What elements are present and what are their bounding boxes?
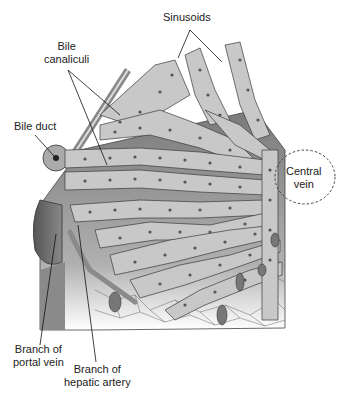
label-portal-vein-line1: Branch of [13,343,64,356]
label-central-vein: Central vein [286,165,321,191]
label-bile-canaliculi-line1: Bile [44,40,89,53]
label-hepatic-artery-line2: hepatic artery [64,376,131,389]
label-sinusoids: Sinusoids [163,11,211,24]
label-bile-canaliculi: Bile canaliculi [44,40,89,66]
label-bile-duct: Bile duct [14,120,56,133]
label-hepatic-artery-line1: Branch of [64,363,131,376]
label-central-vein-line1: Central [286,165,321,178]
label-central-vein-line2: vein [286,178,321,191]
label-portal-vein-line2: portal vein [13,356,64,369]
label-hepatic-artery: Branch of hepatic artery [64,363,131,389]
label-portal-vein: Branch of portal vein [13,343,64,369]
label-bile-canaliculi-line2: canaliculi [44,53,89,66]
